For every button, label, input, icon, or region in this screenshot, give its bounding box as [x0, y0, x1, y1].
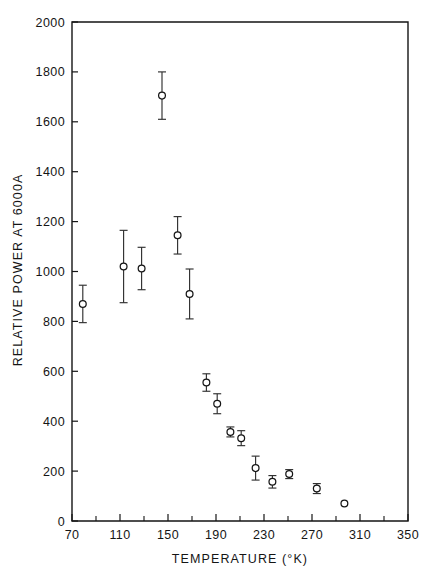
data-point-marker: [252, 465, 259, 472]
data-point-marker: [174, 232, 181, 239]
data-point: [313, 484, 321, 494]
data-point-marker: [120, 263, 127, 270]
data-point: [158, 72, 166, 119]
x-axis-tick-labels: 70110150190230270310350: [65, 528, 419, 542]
y-tick-label: 1200: [36, 215, 65, 229]
data-point-marker: [138, 265, 145, 272]
x-tick-label: 70: [65, 528, 80, 542]
y-tick-label: 1800: [36, 65, 65, 79]
data-point: [202, 374, 210, 391]
data-point: [120, 230, 128, 302]
x-tick-label: 230: [253, 528, 275, 542]
x-tick-label: 350: [397, 528, 419, 542]
y-tick-label: 800: [43, 315, 65, 329]
data-point: [213, 394, 221, 414]
data-point-marker: [186, 291, 193, 298]
data-point-marker: [203, 379, 210, 386]
data-point-marker: [227, 429, 234, 436]
data-point: [252, 456, 260, 480]
y-axis-title: RELATIVE POWER AT 6000A: [11, 174, 25, 367]
data-point: [341, 500, 348, 507]
y-axis-ticks: [72, 22, 78, 521]
scatter-plot: 70110150190230270310350 0200400600800100…: [0, 0, 436, 572]
y-tick-label: 0: [58, 515, 65, 529]
x-axis-title: TEMPERATURE (°K): [172, 552, 308, 566]
y-tick-label: 400: [43, 415, 65, 429]
data-point-marker: [286, 471, 293, 478]
x-axis-ticks: [72, 514, 408, 521]
x-tick-label: 270: [301, 528, 323, 542]
data-point: [268, 476, 276, 488]
data-point: [174, 217, 182, 254]
y-axis-tick-labels: 0200400600800100012001400160018002000: [36, 16, 65, 529]
data-point: [79, 285, 87, 322]
y-tick-label: 2000: [36, 16, 65, 30]
data-point-marker: [214, 400, 221, 407]
y-tick-label: 1600: [36, 115, 65, 129]
data-point: [186, 269, 194, 319]
y-tick-label: 1000: [36, 265, 65, 279]
x-tick-label: 190: [205, 528, 227, 542]
data-point-marker: [313, 485, 320, 492]
x-tick-label: 110: [109, 528, 130, 542]
data-points-group: [79, 72, 348, 507]
data-point-marker: [238, 435, 245, 442]
x-tick-label: 150: [157, 528, 179, 542]
y-tick-label: 200: [43, 465, 65, 479]
y-tick-label: 1400: [36, 165, 65, 179]
data-point: [285, 470, 293, 479]
data-point-marker: [341, 500, 348, 507]
data-point-marker: [79, 301, 86, 308]
figure-container: 70110150190230270310350 0200400600800100…: [0, 0, 436, 572]
x-tick-label: 310: [349, 528, 371, 542]
y-tick-label: 600: [43, 365, 65, 379]
data-point-marker: [159, 92, 166, 99]
data-point: [138, 247, 146, 289]
data-point: [237, 431, 245, 446]
data-point: [226, 427, 234, 437]
data-point-marker: [269, 478, 276, 485]
